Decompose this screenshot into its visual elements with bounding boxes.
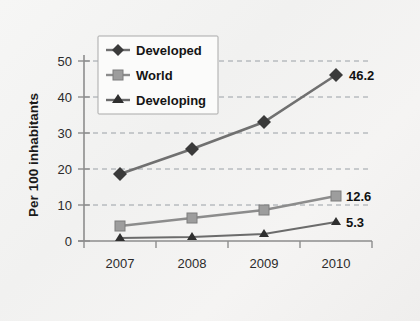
legend-label-world: World — [136, 68, 173, 83]
x-tick-label-2010: 2010 — [322, 256, 351, 271]
data-labels: 46.2 12.6 5.3 — [346, 68, 374, 230]
data-label-developed: 46.2 — [349, 68, 374, 83]
legend-label-developed: Developed — [136, 43, 202, 58]
world-line — [120, 196, 336, 226]
developing-line — [120, 222, 336, 238]
x-tick-label-2009: 2009 — [250, 256, 279, 271]
series-world — [115, 191, 341, 231]
x-tick-label-2007: 2007 — [106, 256, 135, 271]
world-marker-2009 — [259, 205, 269, 215]
y-tick-label-30: 30 — [58, 126, 72, 141]
chart-container: 50 40 30 20 10 0 2007 2008 2009 2010 Per… — [0, 0, 420, 321]
x-tick-label-2008: 2008 — [178, 256, 207, 271]
line-chart: 50 40 30 20 10 0 2007 2008 2009 2010 Per… — [0, 0, 420, 321]
developed-marker-2010 — [329, 68, 343, 82]
y-axis-title: Per 100 inhabitants — [26, 93, 41, 217]
y-tick-labels: 50 40 30 20 10 0 — [58, 54, 72, 249]
developed-marker-2009 — [257, 115, 271, 129]
developing-marker-2010 — [331, 217, 341, 225]
developed-marker-2008 — [185, 142, 199, 156]
y-tick-label-20: 20 — [58, 162, 72, 177]
series-developing — [115, 217, 341, 241]
y-tick-label-0: 0 — [65, 234, 72, 249]
y-tick-label-40: 40 — [58, 90, 72, 105]
world-marker-2010 — [331, 191, 341, 201]
legend-label-developing: Developing — [136, 93, 206, 108]
data-label-world: 12.6 — [346, 189, 371, 204]
x-tick-labels: 2007 2008 2009 2010 — [106, 256, 351, 271]
square-marker — [113, 70, 123, 80]
y-tick-label-10: 10 — [58, 198, 72, 213]
world-marker-2007 — [115, 221, 125, 231]
legend: Developed World Developing — [98, 36, 218, 114]
data-label-developing: 5.3 — [346, 215, 364, 230]
world-marker-2008 — [187, 213, 197, 223]
y-tick-label-50: 50 — [58, 54, 72, 69]
